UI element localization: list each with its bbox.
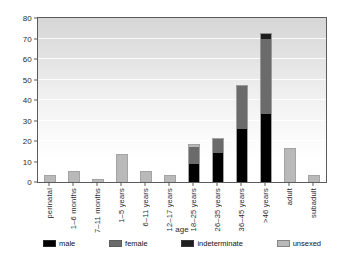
bar-segment-unsexed [93, 180, 103, 182]
legend-swatch-indeterminate [181, 240, 194, 247]
bar-segment-female [189, 147, 199, 163]
legend-swatch-female [109, 240, 122, 247]
x-axis-tick-mark [217, 183, 218, 186]
x-axis-tick-mark [265, 183, 266, 186]
x-axis-tick-mark [97, 183, 98, 186]
y-axis-tick-label: 30 [23, 116, 32, 125]
x-axis-tick-mark [169, 183, 170, 186]
bar-column [44, 175, 56, 182]
y-axis-tick-label: 80 [23, 14, 32, 23]
x-axis-tick-label: adult [285, 188, 294, 205]
bar-segment-unsexed [117, 155, 127, 182]
x-axis-tick-label: subadult [309, 188, 318, 218]
legend-item-indeterminate[interactable]: indeterminate [181, 239, 242, 248]
bar-segment-male [237, 129, 247, 182]
bar-segment-unsexed [69, 172, 79, 182]
legend-label: unsexed [293, 239, 321, 248]
chart-legend: malefemaleindeterminateunsexed [37, 239, 327, 248]
bar-column [92, 179, 104, 182]
bar-segment-unsexed [165, 176, 175, 182]
x-axis-tick-label: 6–11 years [141, 188, 150, 227]
y-axis-tick-label: 60 [23, 55, 32, 64]
bar-segment-unsexed [45, 176, 55, 182]
x-axis-tick-mark [145, 183, 146, 186]
y-axis-tick-label: 70 [23, 34, 32, 43]
y-axis-tick-label: 20 [23, 137, 32, 146]
bar-segment-male [189, 164, 199, 182]
x-axis-tick-mark [121, 183, 122, 186]
x-axis-tick-label: >46 years [261, 188, 270, 223]
x-axis-tick: 6–11 years [141, 183, 150, 227]
y-axis-tick-label: 50 [23, 75, 32, 84]
legend-swatch-unsexed [277, 240, 290, 247]
x-axis-tick-label: 1–6 months [69, 188, 78, 229]
bar-segment-female [237, 86, 247, 129]
x-axis-tick-mark [193, 183, 194, 186]
legend-label: female [125, 239, 148, 248]
x-axis-tick: >46 years [261, 183, 270, 223]
y-axis-tick-label: 0 [27, 178, 32, 187]
x-axis-tick: subadult [309, 183, 318, 218]
legend-label: male [59, 239, 75, 248]
x-axis-tick: 1–6 months [69, 183, 78, 229]
y-axis-tick-label: 10 [23, 157, 32, 166]
bar-column [212, 138, 224, 182]
bar-column [68, 171, 80, 182]
x-axis-tick: adult [285, 183, 294, 205]
bar-segment-unsexed [285, 149, 295, 182]
bar-segment-unsexed [141, 172, 151, 182]
bar-column [308, 175, 320, 182]
y-axis-tick-label: 40 [23, 96, 32, 105]
legend-swatch-male [43, 240, 56, 247]
x-axis-tick-mark [289, 183, 290, 186]
bar-column [188, 144, 200, 182]
bar-column [236, 85, 248, 182]
x-axis-tick: 1–5 years [117, 183, 126, 223]
bar-segment-male [261, 114, 271, 182]
legend-item-female[interactable]: female [109, 239, 148, 248]
legend-item-unsexed[interactable]: unsexed [277, 239, 321, 248]
x-axis-tick-label: 1–5 years [117, 188, 126, 223]
x-axis-tick: perinatal [45, 183, 54, 219]
x-axis-tick-mark [241, 183, 242, 186]
x-axis-tick-mark [73, 183, 74, 186]
bar-column [116, 154, 128, 182]
bar-segment-female [261, 39, 271, 115]
bar-column [284, 148, 296, 182]
y-axis: 01020304050607080 [0, 0, 37, 183]
bar-column [260, 33, 272, 182]
plot-area [37, 17, 327, 183]
bar-segment-unsexed [309, 176, 319, 182]
x-axis-tick-label: perinatal [45, 188, 54, 219]
bar-chart-figure: 01020304050607080 perinatal1–6 months7–1… [0, 0, 342, 260]
x-axis-tick-mark [49, 183, 50, 186]
legend-item-male[interactable]: male [43, 239, 75, 248]
bar-segment-female [213, 139, 223, 153]
x-axis-tick-mark [313, 183, 314, 186]
bar-series-group [38, 18, 326, 182]
legend-label: indeterminate [197, 239, 242, 248]
bar-column [140, 171, 152, 182]
x-axis-title: age [37, 225, 327, 234]
bar-column [164, 175, 176, 182]
bar-segment-male [213, 153, 223, 182]
